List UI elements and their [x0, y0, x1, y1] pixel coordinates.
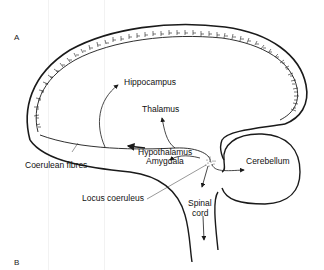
brainstem-right-outline [215, 192, 218, 250]
label-locus-coeruleus: Locus coeruleus [82, 194, 144, 203]
locus-coeruleus-leader [147, 165, 206, 199]
label-cerebellum: Cerebellum [246, 157, 289, 166]
spinal-pathway-bottom [203, 216, 204, 240]
label-hippocampus: Hippocampus [124, 78, 176, 87]
brain-diagram [0, 0, 324, 270]
label-amygdala: Amygdala [146, 157, 184, 166]
cerebellum-outline [222, 134, 300, 204]
label-thalamus: Thalamus [142, 105, 179, 114]
label-spinal: Spinal [188, 199, 212, 208]
label-coerulean-fibres: Coerulean fibres [25, 161, 87, 170]
label-cord: cord [192, 209, 209, 218]
thalamus-pathway [162, 118, 175, 148]
spinal-pathway-top [202, 166, 208, 187]
hippocampus-pathway [99, 85, 118, 147]
cerebellum-pathway [212, 164, 244, 171]
